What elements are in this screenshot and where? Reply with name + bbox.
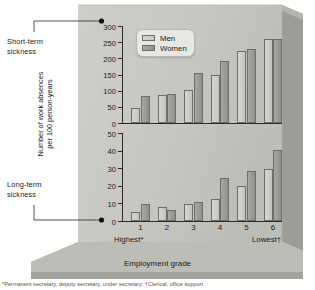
bar-men-grade-3	[184, 204, 193, 221]
bar-men-grade-1	[131, 212, 140, 221]
y-tick: 10	[118, 203, 122, 204]
annotation-long-term-sickness: Long-term sickness	[7, 180, 42, 199]
y-tick-label: 200	[103, 54, 116, 63]
y-tick: 150	[118, 75, 122, 76]
bar-men-grade-5	[237, 186, 246, 221]
bar-men-grade-4	[211, 75, 220, 123]
legend-swatch-men-icon	[142, 35, 155, 42]
x-axis-line-bottom	[122, 221, 282, 222]
bar-men-grade-2	[158, 207, 167, 221]
bar-women-grade-4	[220, 61, 229, 123]
y-tick-label: 50	[108, 103, 116, 112]
legend-item-women: Women	[142, 43, 187, 53]
bar-men-grade-3	[184, 90, 193, 123]
bar-men-grade-5	[237, 51, 246, 123]
legend: Men Women	[136, 29, 195, 57]
bar-group: 1	[131, 133, 150, 221]
y-tick-label: 0	[112, 217, 116, 226]
bar-men-grade-2	[158, 95, 167, 123]
y-tick-label: 40	[108, 147, 116, 156]
bar-group: 4	[211, 133, 230, 221]
y-tick: 0	[118, 221, 122, 222]
bar-women-grade-2	[167, 94, 176, 123]
bar-group: 3	[184, 133, 203, 221]
legend-label-men: Men	[160, 34, 175, 43]
chart-long-term: 01020304050 123456	[99, 133, 282, 222]
bar-group	[237, 26, 256, 123]
y-tick: 50	[118, 133, 122, 134]
bar-group: 2	[158, 133, 177, 221]
x-tick-label-3: 3	[184, 223, 203, 232]
callout-line-long	[34, 205, 100, 220]
y-tick: 100	[118, 91, 122, 92]
bar-men-grade-6	[264, 169, 273, 221]
plot-area-bottom: 123456	[123, 133, 282, 221]
x-tick-label-1: 1	[131, 223, 150, 232]
y-tick-label: 150	[103, 71, 116, 80]
bar-women-grade-6	[273, 150, 282, 221]
bar-women-grade-6	[273, 39, 282, 123]
figure-container: Short-term sickness Long-term sickness N…	[0, 0, 315, 290]
x-axis-end-label-highest: Highest*	[114, 235, 143, 244]
y-tick-label: 250	[103, 38, 116, 47]
bar-women-grade-2	[167, 210, 176, 221]
y-tick: 200	[118, 58, 122, 59]
x-tick-label-5: 5	[237, 223, 256, 232]
y-tick-label: 30	[108, 164, 116, 173]
y-tick: 250	[118, 42, 122, 43]
x-axis-title: Employment grade	[0, 259, 315, 268]
bar-group: 5	[237, 133, 256, 221]
y-tick: 20	[118, 186, 122, 187]
y-tick-label: 300	[103, 22, 116, 31]
bar-women-grade-3	[194, 73, 203, 123]
y-tick: 40	[118, 151, 122, 152]
y-tick-label: 10	[108, 199, 116, 208]
bar-group: 6	[264, 133, 283, 221]
y-tick: 50	[118, 107, 122, 108]
y-axis-title: Number of work absences per 100 person-y…	[36, 49, 54, 179]
y-tick-label: 20	[108, 182, 116, 191]
callout-line-short	[34, 21, 100, 32]
bar-women-grade-1	[141, 204, 150, 221]
y-tick-label: 0	[112, 119, 116, 128]
y-tick-label: 50	[108, 129, 116, 138]
x-tick-label-4: 4	[211, 223, 230, 232]
legend-label-women: Women	[160, 44, 187, 53]
bar-women-grade-3	[194, 202, 203, 221]
bar-group	[211, 26, 230, 123]
y-tick: 30	[118, 168, 122, 169]
x-axis-end-label-lowest: Lowest†	[252, 235, 281, 244]
legend-swatch-women-icon	[142, 45, 155, 52]
bar-women-grade-5	[247, 171, 256, 221]
x-tick-label-2: 2	[158, 223, 177, 232]
figure-footnote: *Permanent secretary, deputy secretary, …	[2, 281, 203, 287]
bar-women-grade-4	[220, 178, 229, 222]
bar-men-grade-4	[211, 199, 220, 221]
bar-men-grade-1	[131, 108, 140, 123]
x-axis-line-top	[122, 123, 282, 124]
y-tick: 300	[118, 26, 122, 27]
x-tick-label-6: 6	[264, 223, 283, 232]
y-tick: 0	[118, 123, 122, 124]
bar-women-grade-5	[247, 49, 256, 123]
bar-group	[264, 26, 283, 123]
bar-women-grade-1	[141, 96, 150, 123]
y-tick-label: 100	[103, 87, 116, 96]
legend-item-men: Men	[142, 33, 187, 43]
bar-men-grade-6	[264, 39, 273, 123]
